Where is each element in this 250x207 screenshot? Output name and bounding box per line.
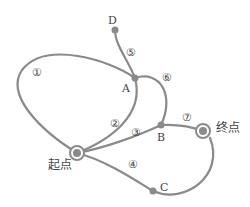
edge-label-5: ⑤ [126, 46, 136, 59]
label-start: 起点 [48, 158, 72, 172]
node-start [70, 146, 84, 160]
label-D: D [108, 14, 117, 27]
label-A: A [121, 82, 131, 95]
edge-label-6: ⑥ [162, 71, 172, 84]
edge-label-7: ⑦ [182, 111, 192, 124]
node-D [112, 27, 119, 34]
node-B [158, 122, 165, 129]
label-C: C [160, 181, 168, 194]
edge-label-2: ② [110, 117, 120, 130]
edge-label-3: ③ [131, 126, 141, 139]
edge-4 [77, 153, 153, 191]
label-B: B [157, 131, 165, 144]
edge-label-1: ① [32, 66, 42, 79]
edge-label-4: ④ [128, 158, 138, 171]
label-end: 终点 [216, 120, 240, 135]
node-end [196, 124, 210, 138]
node-C [150, 188, 157, 195]
route-diagram: 起点 终点 A B C D ① ② ③ ④ ⑤ ⑥ ⑦ [0, 0, 250, 207]
node-A [132, 75, 139, 82]
